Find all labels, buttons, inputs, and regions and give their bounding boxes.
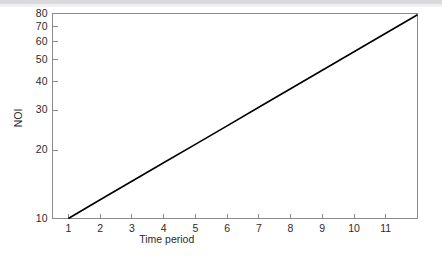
chart-figure: 1020304050607080 1234567891011 Time peri… xyxy=(0,0,442,259)
y-tick-label: 20 xyxy=(36,143,48,155)
data-series-group xyxy=(68,15,417,219)
y-tick-label: 10 xyxy=(36,212,48,224)
y-tick-label: 30 xyxy=(36,103,48,115)
plot-frame xyxy=(53,14,418,219)
x-tick-label: 7 xyxy=(256,222,262,234)
x-tick-label: 11 xyxy=(380,222,391,234)
x-tick-label: 10 xyxy=(348,222,360,234)
series-line-noi xyxy=(68,15,417,219)
y-tick-label: 70 xyxy=(36,20,48,32)
plot-frame-rect xyxy=(53,14,418,219)
y-axis-title: NOI xyxy=(12,109,24,128)
x-tick-label: 6 xyxy=(224,222,230,234)
x-tick-label: 2 xyxy=(97,222,103,234)
x-tick-label: 8 xyxy=(288,222,294,234)
x-axis-ticks: 1234567891011 xyxy=(65,214,391,234)
y-tick-label: 80 xyxy=(36,7,48,19)
x-tick-label: 3 xyxy=(129,222,135,234)
x-tick-label: 1 xyxy=(65,222,71,234)
y-axis-ticks: 1020304050607080 xyxy=(36,7,58,224)
x-axis-title: Time period xyxy=(139,233,194,245)
noi-vs-time-line-chart: 1020304050607080 1234567891011 Time peri… xyxy=(0,0,442,259)
x-tick-label: 9 xyxy=(319,222,325,234)
y-tick-label: 40 xyxy=(36,75,48,87)
y-tick-label: 60 xyxy=(36,35,48,47)
y-tick-label: 50 xyxy=(36,53,48,65)
